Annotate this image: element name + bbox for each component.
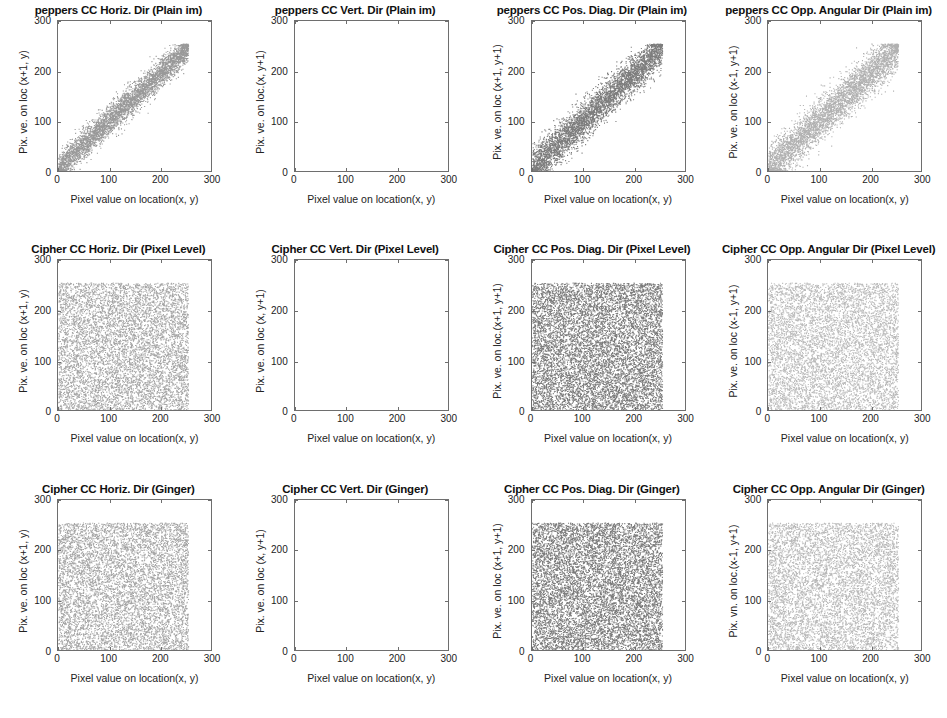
y-tick-mark-right xyxy=(445,311,449,312)
x-tick-mark xyxy=(532,168,533,172)
plot-panel-p01: peppers CC Vert. Dir (Plain im)010020030… xyxy=(237,0,474,239)
x-tick-label: 0 xyxy=(764,174,770,185)
y-tick-label: 0 xyxy=(282,645,288,656)
x-tick-labels: 0100200300 xyxy=(294,174,449,188)
y-tick-label: 100 xyxy=(34,594,51,605)
y-tick-mark-right xyxy=(445,21,449,22)
y-tick-label: 300 xyxy=(745,493,762,504)
x-tick-labels: 0100200300 xyxy=(294,653,449,667)
x-tick-label: 0 xyxy=(54,174,60,185)
y-tick-mark-right xyxy=(682,500,686,501)
scatter-points xyxy=(295,260,448,410)
x-tick-label: 300 xyxy=(914,653,931,664)
y-axis-label: Pix. ve. on loc (x, y+1) xyxy=(254,256,266,426)
x-tick-label: 100 xyxy=(100,653,117,664)
x-tick-mark-top xyxy=(635,259,636,263)
x-tick-label: 300 xyxy=(914,174,931,185)
x-tick-label: 0 xyxy=(528,174,534,185)
y-tick-label: 200 xyxy=(745,544,762,555)
x-tick-mark xyxy=(820,647,821,651)
x-tick-label: 300 xyxy=(677,174,694,185)
y-tick-mark xyxy=(531,362,535,363)
x-axis-label: Pixel value on location(x, y) xyxy=(737,672,947,684)
y-tick-mark xyxy=(57,311,61,312)
x-tick-label: 300 xyxy=(914,413,931,424)
y-tick-mark-right xyxy=(445,122,449,123)
x-tick-mark xyxy=(110,168,111,172)
y-tick-mark xyxy=(531,21,535,22)
x-axis-label: Pixel value on location(x, y) xyxy=(501,432,716,444)
x-tick-label: 300 xyxy=(677,653,694,664)
y-tick-mark-right xyxy=(445,601,449,602)
y-tick-label: 100 xyxy=(508,594,525,605)
scatter-points xyxy=(58,260,211,410)
x-tick-mark-top xyxy=(398,259,399,263)
x-tick-labels: 0100200300 xyxy=(57,413,212,427)
x-tick-label: 300 xyxy=(440,174,457,185)
y-axis-label: Pix. ve. on loc (x, y+1) xyxy=(254,496,266,666)
y-tick-mark-right xyxy=(208,601,212,602)
x-axis-label: Pixel value on location(x, y) xyxy=(264,672,479,684)
x-axis-label: Pixel value on location(x, y) xyxy=(264,432,479,444)
x-tick-label: 100 xyxy=(100,413,117,424)
y-tick-label: 300 xyxy=(34,15,51,26)
plot-panel-p20: Cipher CC Horiz. Dir (Ginger)01002003000… xyxy=(0,479,237,718)
x-tick-mark-top xyxy=(161,20,162,24)
scatter-points xyxy=(532,260,685,410)
y-tick-mark xyxy=(531,72,535,73)
y-tick-label: 100 xyxy=(745,594,762,605)
y-tick-label: 0 xyxy=(756,167,762,178)
x-tick-label: 200 xyxy=(152,653,169,664)
plot-axes xyxy=(294,20,449,172)
y-tick-mark-right xyxy=(682,72,686,73)
x-axis-label: Pixel value on location(x, y) xyxy=(27,432,242,444)
y-tick-mark xyxy=(57,260,61,261)
x-tick-label: 100 xyxy=(100,174,117,185)
y-tick-label: 0 xyxy=(45,406,51,417)
x-tick-mark xyxy=(532,407,533,411)
x-tick-label: 0 xyxy=(764,653,770,664)
x-tick-label: 200 xyxy=(152,413,169,424)
x-tick-mark xyxy=(161,647,162,651)
y-tick-label: 0 xyxy=(282,167,288,178)
y-tick-label: 100 xyxy=(271,594,288,605)
y-tick-label: 100 xyxy=(34,355,51,366)
scatter-points xyxy=(58,500,211,650)
x-tick-mark xyxy=(346,168,347,172)
x-tick-mark xyxy=(872,647,873,651)
y-tick-mark xyxy=(294,72,298,73)
y-tick-label: 100 xyxy=(271,355,288,366)
x-tick-mark xyxy=(295,647,296,651)
x-tick-mark xyxy=(161,407,162,411)
y-tick-mark-right xyxy=(445,550,449,551)
y-axis-label: Pix. ve. on loc.(x+1, y+1) xyxy=(491,256,503,426)
y-tick-mark xyxy=(531,122,535,123)
y-tick-label: 100 xyxy=(271,116,288,127)
x-tick-mark-top xyxy=(820,259,821,263)
x-axis-label: Pixel value on location(x, y) xyxy=(27,672,242,684)
y-tick-label: 300 xyxy=(271,15,288,26)
y-tick-label: 300 xyxy=(34,254,51,265)
scatter-points xyxy=(768,500,921,650)
x-tick-mark xyxy=(346,407,347,411)
plot-panel-p03: peppers CC Opp. Angular Dir (Plain im)01… xyxy=(710,0,947,239)
y-tick-mark-right xyxy=(208,500,212,501)
x-tick-mark-top xyxy=(398,499,399,503)
y-tick-mark-right xyxy=(208,550,212,551)
y-tick-mark-right xyxy=(918,260,922,261)
x-tick-label: 200 xyxy=(862,174,879,185)
y-tick-label: 0 xyxy=(519,406,525,417)
y-tick-mark xyxy=(294,500,298,501)
x-tick-mark-top xyxy=(110,20,111,24)
y-tick-mark-right xyxy=(918,601,922,602)
y-tick-mark-right xyxy=(208,260,212,261)
x-tick-label: 100 xyxy=(811,413,828,424)
x-tick-label: 100 xyxy=(337,174,354,185)
y-tick-label: 300 xyxy=(745,15,762,26)
y-tick-mark-right xyxy=(682,311,686,312)
x-axis-label: Pixel value on location(x, y) xyxy=(501,672,716,684)
y-tick-label: 0 xyxy=(756,406,762,417)
y-tick-label: 200 xyxy=(745,65,762,76)
x-tick-label: 200 xyxy=(625,174,642,185)
y-tick-mark xyxy=(767,122,771,123)
